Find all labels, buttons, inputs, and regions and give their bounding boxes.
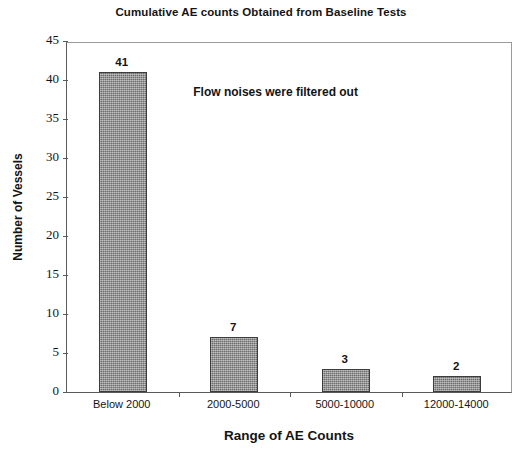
y-tick-mark xyxy=(63,392,68,393)
x-tick-label: Below 2000 xyxy=(62,398,182,410)
bar-value-label: 3 xyxy=(315,353,375,365)
y-tick-mark xyxy=(63,314,68,315)
y-tick-label: 45 xyxy=(23,32,59,48)
x-axis-title: Range of AE Counts xyxy=(66,428,512,443)
x-axis-tick xyxy=(290,392,291,397)
bar xyxy=(210,337,258,392)
x-axis-tick xyxy=(179,392,180,397)
y-tick-label: 30 xyxy=(23,149,59,165)
y-tick-label: 40 xyxy=(23,71,59,87)
bar-value-label: 41 xyxy=(92,56,152,68)
y-tick-mark xyxy=(63,275,68,276)
y-tick-label: 15 xyxy=(23,266,59,282)
y-tick-label: 35 xyxy=(23,110,59,126)
bar xyxy=(433,376,481,392)
y-tick-label: 10 xyxy=(23,305,59,321)
y-tick-label: 25 xyxy=(23,188,59,204)
y-tick-mark xyxy=(63,197,68,198)
bar-chart: Cumulative AE counts Obtained from Basel… xyxy=(0,0,522,458)
bar xyxy=(99,72,147,392)
y-tick-mark xyxy=(63,80,68,81)
y-tick-mark xyxy=(63,41,68,42)
y-tick-mark xyxy=(63,353,68,354)
y-tick-label: 0 xyxy=(23,383,59,399)
bar-value-label: 7 xyxy=(203,321,263,333)
bar xyxy=(322,369,370,392)
y-tick-label: 20 xyxy=(23,227,59,243)
y-tick-mark xyxy=(63,158,68,159)
chart-annotation: Flow noises were filtered out xyxy=(186,85,366,99)
y-tick-mark xyxy=(63,119,68,120)
x-tick-label: 2000-5000 xyxy=(173,398,293,410)
x-tick-label: 5000-10000 xyxy=(285,398,405,410)
y-tick-mark xyxy=(63,236,68,237)
bar-value-label: 2 xyxy=(426,360,486,372)
y-tick-label: 5 xyxy=(23,344,59,360)
chart-title: Cumulative AE counts Obtained from Basel… xyxy=(0,6,522,18)
x-axis-tick xyxy=(402,392,403,397)
x-tick-label: 12000-14000 xyxy=(396,398,516,410)
